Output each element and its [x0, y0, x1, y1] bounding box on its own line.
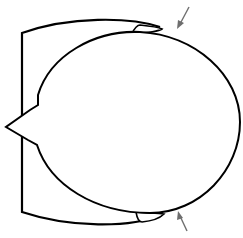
- head-helmet-diagram: [0, 0, 243, 238]
- diagram-canvas: [0, 0, 243, 238]
- bottom-arrow-icon: [177, 211, 187, 231]
- top-arrow-icon: [177, 7, 189, 29]
- head-outline: [6, 32, 240, 213]
